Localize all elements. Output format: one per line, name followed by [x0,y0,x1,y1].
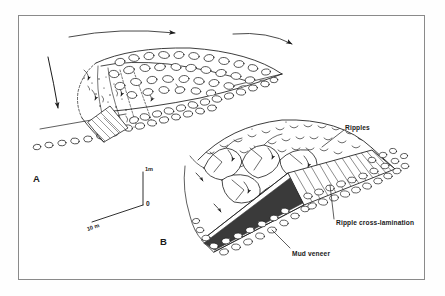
annotation-ripple-cross-lamination: Ripple cross-lamination [336,219,414,226]
figure-root: A B 1m 0 10 m Ripples Ripple cross-lamin… [0,0,445,296]
scale-vertical-label: 1m [145,166,153,172]
annotation-ripples: Ripples [345,124,370,131]
panel-label-a: A [33,173,40,184]
panel-label-b: B [160,236,167,247]
annotation-mud-veneer: Mud veneer [292,250,330,257]
figure-frame [18,15,425,280]
scale-origin-label: 0 [146,200,150,207]
